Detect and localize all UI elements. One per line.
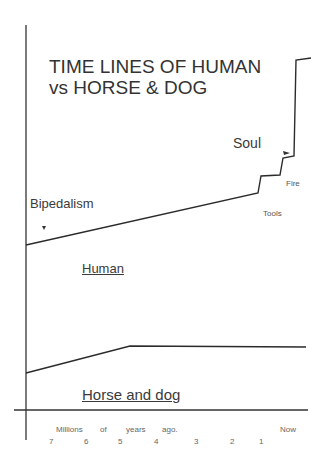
x-caption-years: years xyxy=(126,426,146,434)
x-caption-millions: Millions xyxy=(56,426,83,434)
soul-arrow-icon xyxy=(283,151,290,155)
x-tick-6: 6 xyxy=(84,438,88,446)
tools-label: Tools xyxy=(263,210,282,218)
x-caption-of: of xyxy=(100,426,107,434)
x-tick-4: 4 xyxy=(154,438,158,446)
bipedalism-arrow-icon xyxy=(42,226,46,230)
x-now-label: Now xyxy=(280,426,296,434)
x-tick-1: 1 xyxy=(259,438,263,446)
title-line-2: vs HORSE & DOG xyxy=(49,77,261,98)
x-tick-2: 2 xyxy=(230,438,234,446)
horse-dog-series-label: Horse and dog xyxy=(82,387,180,402)
soul-label: Soul xyxy=(233,136,261,150)
fire-label: Fire xyxy=(286,180,300,188)
title-line-1: TIME LINES OF HUMAN xyxy=(49,56,261,77)
x-tick-7: 7 xyxy=(49,438,53,446)
x-caption-ago: ago. xyxy=(162,426,178,434)
human-series-label: Human xyxy=(82,262,124,275)
x-tick-5: 5 xyxy=(118,438,122,446)
x-tick-3: 3 xyxy=(194,438,198,446)
bipedalism-label: Bipedalism xyxy=(30,197,94,210)
horse-dog-timeline xyxy=(26,346,306,373)
diagram-title: TIME LINES OF HUMAN vs HORSE & DOG xyxy=(49,56,261,98)
